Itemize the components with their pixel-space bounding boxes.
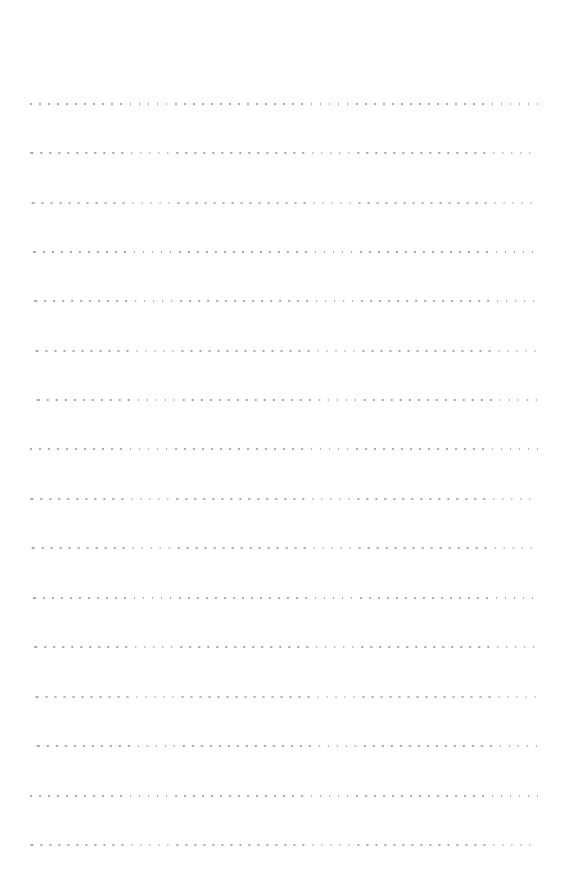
lined-paper-page [0,0,569,885]
ruled-line [30,202,538,204]
ruled-line [30,399,538,401]
ruled-lines-area [0,0,569,885]
ruled-line [30,251,538,253]
ruled-line [30,745,538,747]
ruled-line [30,547,538,549]
ruled-line [30,152,538,154]
ruled-line [30,844,538,846]
ruled-line [30,350,538,352]
ruled-line [30,696,538,698]
ruled-line [30,646,538,648]
ruled-line [30,300,538,302]
ruled-line [30,498,538,500]
ruled-line [30,597,538,599]
ruled-line [30,795,538,797]
ruled-line [30,448,538,450]
ruled-line [30,103,538,105]
